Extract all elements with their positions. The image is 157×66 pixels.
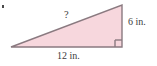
hypotenuse-label: ?	[64, 9, 69, 20]
horizontal-leg-label: 12 in.	[57, 50, 80, 61]
vertical-leg-label: 6 in.	[128, 16, 146, 27]
triangle-figure: ? 6 in. 12 in.	[0, 0, 157, 66]
scan-artifact-mark	[2, 5, 4, 8]
